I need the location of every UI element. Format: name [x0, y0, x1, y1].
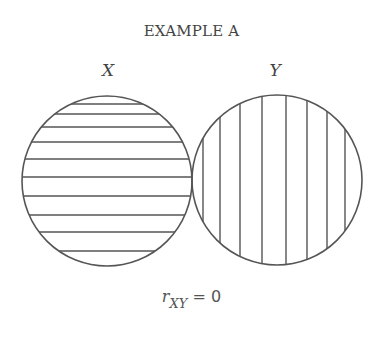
- correlation-formula: rXY = 0: [0, 287, 383, 311]
- set-x-circle: [22, 96, 192, 266]
- formula-subscript: XY: [170, 296, 188, 311]
- set-y-vertical-hatch: [203, 93, 345, 267]
- set-y-circle: [192, 95, 362, 265]
- formula-relation: = 0: [187, 287, 221, 306]
- set-x-horizontal-hatch: [20, 104, 194, 251]
- formula-variable: r: [162, 287, 170, 306]
- venn-diagram: EXAMPLE A X Y rXY = 0: [0, 0, 383, 337]
